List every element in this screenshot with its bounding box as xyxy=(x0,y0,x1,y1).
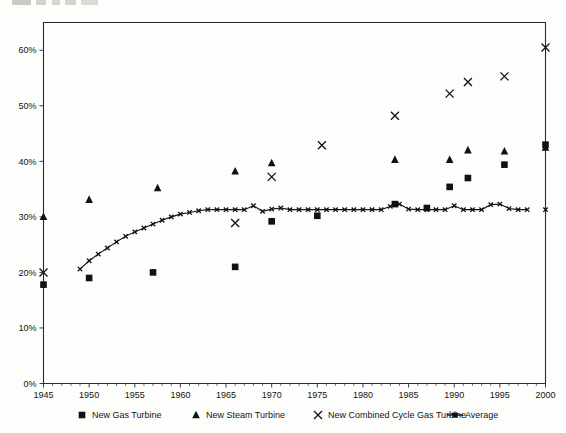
data-point-square xyxy=(268,218,275,225)
x-axis-ticks xyxy=(44,384,546,388)
data-point-triangle xyxy=(268,159,276,167)
data-point-x xyxy=(87,259,91,263)
data-point-square xyxy=(446,184,453,191)
data-point-square xyxy=(465,175,472,182)
legend-label: Average xyxy=(465,410,498,420)
data-point-x xyxy=(151,222,155,226)
data-point-x xyxy=(231,219,239,227)
legend-label: New Combined Cycle Gas Turbine xyxy=(328,410,466,420)
data-point-x xyxy=(318,141,326,149)
data-point-triangle xyxy=(154,184,162,192)
y-tick-label: 50% xyxy=(18,101,36,111)
y-tick-label: 60% xyxy=(18,45,36,55)
data-point-square xyxy=(314,212,321,219)
x-tick-label: 1995 xyxy=(490,390,510,400)
data-point-x xyxy=(391,112,399,120)
data-point-x xyxy=(251,204,255,208)
x-tick-label: 1975 xyxy=(307,390,327,400)
y-axis-tick-labels: 0%10%20%30%40%50%60% xyxy=(18,45,36,388)
data-point-triangle xyxy=(40,213,48,221)
y-tick-label: 40% xyxy=(18,157,36,167)
data-point-triangle xyxy=(192,411,200,419)
data-point-square xyxy=(452,412,457,417)
data-point-x xyxy=(123,234,127,238)
data-point-x xyxy=(78,267,82,271)
series-average xyxy=(78,202,548,271)
x-tick-label: 1985 xyxy=(399,390,419,400)
data-point-x xyxy=(114,240,118,244)
data-point-triangle xyxy=(501,147,509,155)
plot-frame xyxy=(44,23,546,384)
data-point-square xyxy=(86,275,93,282)
y-tick-label: 30% xyxy=(18,212,36,222)
legend-item-new-combined-cycle-gas-turbine[interactable]: New Combined Cycle Gas Turbine xyxy=(314,410,466,420)
legend-item-new-gas-turbine[interactable]: New Gas Turbine xyxy=(79,410,162,420)
data-point-x xyxy=(105,246,109,250)
data-point-square xyxy=(232,264,239,271)
legend-item-new-steam-turbine[interactable]: New Steam Turbine xyxy=(192,410,285,420)
data-point-triangle xyxy=(446,155,454,163)
legend-label: New Gas Turbine xyxy=(92,410,162,420)
data-point-x xyxy=(268,173,276,181)
data-point-square xyxy=(79,412,86,419)
data-point-square xyxy=(150,269,157,276)
x-tick-label: 1990 xyxy=(444,390,464,400)
x-tick-label: 1965 xyxy=(216,390,236,400)
data-point-triangle xyxy=(391,155,399,163)
x-tick-label: 1950 xyxy=(79,390,99,400)
data-point-square xyxy=(392,201,399,208)
data-point-x xyxy=(142,226,146,230)
data-point-triangle xyxy=(464,146,472,154)
legend-label: New Steam Turbine xyxy=(206,410,285,420)
data-point-x xyxy=(452,204,456,208)
y-tick-label: 0% xyxy=(23,379,36,389)
data-point-x xyxy=(96,252,100,256)
data-point-triangle xyxy=(85,195,93,203)
data-point-square xyxy=(424,205,431,212)
x-tick-label: 1960 xyxy=(170,390,190,400)
efficiency-scatter-chart: 0%10%20%30%40%50%60% 1945195019551960196… xyxy=(0,0,566,433)
x-tick-label: 1970 xyxy=(262,390,282,400)
x-axis-tick-labels: 1945195019551960196519701975198019851990… xyxy=(33,390,555,400)
x-tick-label: 2000 xyxy=(535,390,555,400)
x-tick-label: 1980 xyxy=(353,390,373,400)
data-point-x xyxy=(133,230,137,234)
data-point-x xyxy=(464,78,472,86)
data-point-x xyxy=(500,72,508,80)
data-point-square xyxy=(501,161,508,168)
series-new-gas-turbine xyxy=(40,141,549,288)
y-tick-label: 10% xyxy=(18,323,36,333)
y-tick-label: 20% xyxy=(18,268,36,278)
chart-legend: New Gas TurbineNew Steam TurbineNew Comb… xyxy=(79,410,499,420)
data-point-square xyxy=(40,281,47,288)
data-point-x xyxy=(446,90,454,98)
x-tick-label: 1945 xyxy=(33,390,53,400)
data-point-triangle xyxy=(231,167,239,175)
data-point-x xyxy=(314,411,322,419)
x-tick-label: 1955 xyxy=(125,390,145,400)
average-line xyxy=(80,204,527,269)
